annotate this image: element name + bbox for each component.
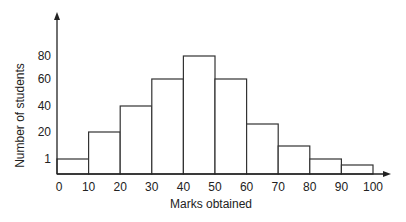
x-tick-label: 60 xyxy=(232,181,262,193)
x-tick-label: 90 xyxy=(326,181,356,193)
y-tick-label: 1 xyxy=(27,153,51,165)
y-tick-label: 60 xyxy=(27,73,51,85)
x-tick-label: 20 xyxy=(105,181,135,193)
histogram-bar xyxy=(341,165,373,174)
x-tick-label: 30 xyxy=(137,181,167,193)
y-axis-arrow-icon xyxy=(54,12,60,20)
y-tick-label: 20 xyxy=(27,126,51,138)
y-tick-label: 80 xyxy=(27,50,51,62)
x-tick-label: 100 xyxy=(358,181,388,193)
x-axis-arrow-icon xyxy=(383,171,391,177)
histogram-bars xyxy=(57,56,373,174)
x-tick-label: 10 xyxy=(74,181,104,193)
x-axis-title: Marks obtained xyxy=(170,198,252,211)
histogram-bar xyxy=(120,106,152,174)
y-axis-title: Number of students xyxy=(14,61,27,171)
x-tick-label: 70 xyxy=(263,181,293,193)
histogram-bar xyxy=(57,159,89,174)
histogram-bar xyxy=(278,146,310,174)
histogram-bar xyxy=(183,56,215,174)
histogram-bar xyxy=(247,124,279,174)
y-tick-label: 40 xyxy=(27,100,51,112)
histogram-bar xyxy=(215,79,247,174)
x-tick-label: 0 xyxy=(44,181,74,193)
histogram-bar xyxy=(310,159,342,174)
histogram-bar xyxy=(89,132,121,174)
histogram-bar xyxy=(152,79,184,174)
x-tick-label: 80 xyxy=(295,181,325,193)
x-tick-label: 50 xyxy=(200,181,230,193)
x-tick-label: 40 xyxy=(168,181,198,193)
